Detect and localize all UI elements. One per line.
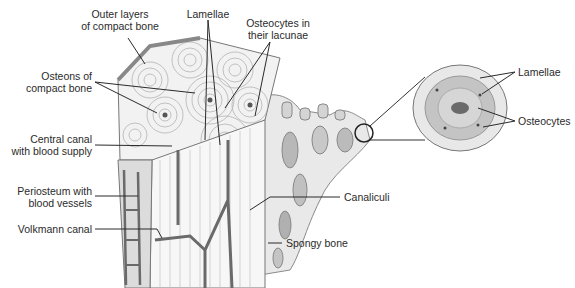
label-inset-lamellae: Lamellae [518, 66, 561, 78]
label-line: with blood supply [0, 145, 92, 157]
label-osteocytes-lacunae: Osteocytes in their lacunae [238, 17, 318, 41]
inset-magnified-osteon [355, 65, 507, 151]
periosteum-graphic [118, 160, 152, 288]
label-osteons: Osteons of compact bone [0, 70, 92, 94]
label-line: compact bone [0, 82, 92, 94]
label-lamellae: Lamellae [180, 8, 236, 20]
label-line: Osteons of [0, 70, 92, 82]
label-line: Osteocytes in [238, 17, 318, 29]
label-volkmann-canal: Volkmann canal [0, 223, 92, 235]
label-canaliculi: Canaliculi [344, 191, 390, 203]
label-periosteum: Periosteum with blood vessels [0, 185, 92, 209]
label-outer-layers: Outer layers of compact bone [70, 8, 170, 32]
label-spongy-bone: Spongy bone [286, 237, 348, 249]
label-line: Central canal [0, 133, 92, 145]
label-line: Periosteum with [0, 185, 92, 197]
label-line: their lacunae [238, 29, 318, 41]
label-inset-osteocytes: Osteocytes [518, 115, 571, 127]
label-central-canal: Central canal with blood supply [0, 133, 92, 157]
label-line: of compact bone [70, 20, 170, 32]
label-line: Outer layers [70, 8, 170, 20]
label-line: blood vessels [0, 197, 92, 209]
